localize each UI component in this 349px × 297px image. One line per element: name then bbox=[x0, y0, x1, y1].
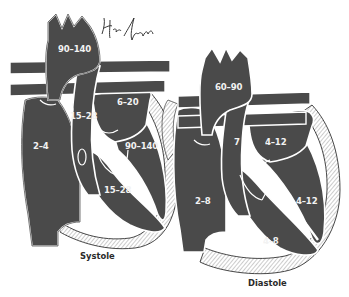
diastole-right-ventricle-pressure: 4–8 bbox=[263, 235, 279, 246]
systole-heart-diagram bbox=[0, 0, 349, 297]
systole-left-ventricle-pressure: 90–140 bbox=[125, 140, 158, 151]
diastole-right-atrium-pressure: 2–8 bbox=[195, 195, 211, 206]
diastole-aorta-pressure: 60–90 bbox=[215, 81, 242, 92]
systole-right-ventricle-pressure: 15–28 bbox=[104, 184, 131, 195]
diastole-right-atrium bbox=[174, 107, 226, 252]
systole-caption: Systole bbox=[80, 250, 115, 261]
diastole-left-atrium-pressure: 4–12 bbox=[265, 136, 286, 147]
systole-aorta-pressure: 90–140 bbox=[58, 43, 91, 54]
signature bbox=[100, 14, 155, 46]
systole-right-atrium-pressure: 2–4 bbox=[33, 140, 49, 151]
heart-pressure-figure: 90–140 15–28 6–20 2–4 90–140 15–28 60–90… bbox=[0, 0, 349, 297]
diastole-heart-diagram bbox=[162, 48, 340, 274]
diastole-caption: Diastole bbox=[248, 277, 287, 288]
diastole-pulmonary-artery-pressure: 7 bbox=[234, 136, 240, 147]
diastole-left-ventricle-pressure: 4–12 bbox=[296, 195, 317, 206]
systole-left-atrium-pressure: 6–20 bbox=[117, 96, 138, 107]
systole-pulmonary-artery-pressure: 15–28 bbox=[70, 110, 97, 121]
